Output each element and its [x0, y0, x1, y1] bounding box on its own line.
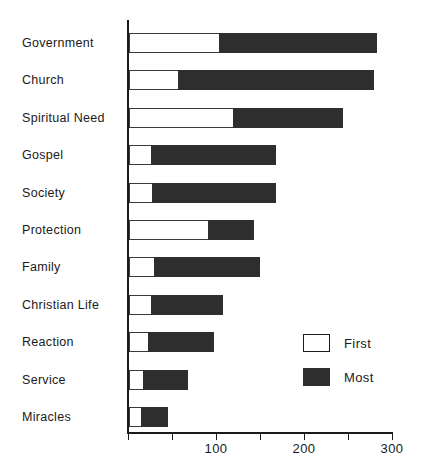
category-label-service: Service: [0, 373, 118, 387]
bar-segment-first: [129, 145, 151, 165]
bar-spiritual-need: [129, 108, 343, 128]
bar-segment-first: [129, 370, 143, 390]
legend-item-first: First: [303, 326, 374, 360]
category-label-miracles: Miracles: [0, 410, 118, 424]
x-tick-50: [172, 434, 173, 440]
bar-segment-most: [233, 108, 343, 128]
bar-segment-most: [152, 183, 276, 203]
category-label-christian-life: Christian Life: [0, 298, 118, 312]
bar-segment-first: [129, 33, 219, 53]
bar-segment-most: [141, 407, 167, 427]
category-label-spiritual-need: Spiritual Need: [0, 111, 118, 125]
chart-page: 100200300 GovernmentChurchSpiritual Need…: [0, 0, 421, 469]
category-label-protection: Protection: [0, 223, 118, 237]
legend-label-first: First: [344, 336, 371, 351]
bar-service: [129, 370, 188, 390]
bar-segment-first: [129, 108, 233, 128]
chart-legend: First Most: [303, 326, 374, 394]
x-tick-label-300: 300: [380, 441, 403, 456]
category-label-church: Church: [0, 73, 118, 87]
bar-reaction: [129, 332, 214, 352]
filled-square-swatch-icon: [303, 368, 330, 386]
bar-family: [129, 257, 260, 277]
bar-protection: [129, 220, 254, 240]
bar-segment-most: [148, 332, 214, 352]
category-label-government: Government: [0, 36, 118, 50]
x-tick-200: [304, 434, 305, 440]
bar-segment-most: [219, 33, 377, 53]
bar-segment-most: [208, 220, 254, 240]
bar-society: [129, 183, 276, 203]
bar-government: [129, 33, 377, 53]
bar-gospel: [129, 145, 276, 165]
stacked-bar-chart: 100200300 GovernmentChurchSpiritual Need…: [0, 0, 421, 469]
category-label-gospel: Gospel: [0, 148, 118, 162]
x-tick-0: [128, 434, 129, 440]
x-tick-300: [392, 434, 393, 440]
open-square-swatch-icon: [303, 334, 330, 352]
bar-segment-first: [129, 407, 141, 427]
bar-segment-first: [129, 70, 178, 90]
category-label-family: Family: [0, 260, 118, 274]
bar-miracles: [129, 407, 168, 427]
x-tick-label-200: 200: [292, 441, 315, 456]
bar-segment-first: [129, 183, 152, 203]
bar-church: [129, 70, 374, 90]
x-tick-150: [260, 434, 261, 440]
bar-segment-first: [129, 332, 148, 352]
bar-segment-most: [178, 70, 373, 90]
legend-label-most: Most: [344, 370, 374, 385]
category-label-society: Society: [0, 186, 118, 200]
x-tick-label-100: 100: [204, 441, 227, 456]
bar-segment-most: [151, 295, 223, 315]
bar-segment-first: [129, 220, 208, 240]
bar-segment-most: [143, 370, 188, 390]
legend-item-most: Most: [303, 360, 374, 394]
category-label-reaction: Reaction: [0, 335, 118, 349]
bar-segment-most: [151, 145, 276, 165]
bar-christian-life: [129, 295, 223, 315]
bar-segment-first: [129, 295, 151, 315]
x-tick-100: [216, 434, 217, 440]
x-tick-250: [348, 434, 349, 440]
bar-segment-most: [154, 257, 260, 277]
bar-segment-first: [129, 257, 154, 277]
